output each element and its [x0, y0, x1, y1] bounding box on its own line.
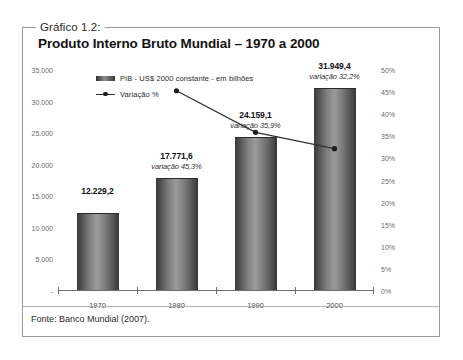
bar-value-label: 31.949,4	[318, 61, 350, 71]
x-axis-tick	[137, 287, 138, 294]
left-axis-tick-label: -	[51, 288, 53, 295]
source-note: Fonte: Banco Mundial (2007).	[31, 314, 150, 324]
left-axis-tick-label: 35.000	[32, 67, 53, 74]
chart-legend: PIB - US$ 2000 constante - em bilhões Va…	[96, 72, 253, 104]
figure-caption-tag: Gráfico 1.2:	[36, 17, 105, 37]
right-axis-tick-label: 20%	[381, 199, 395, 206]
bar-value-label: 24.159,1	[239, 110, 271, 120]
x-axis-tick	[216, 287, 217, 294]
legend-label-pib: PIB - US$ 2000 constante - em bilhões	[120, 74, 253, 83]
bar	[77, 213, 119, 290]
left-axis-tick-label: 10.000	[32, 224, 53, 231]
left-axis-tick-label: 30.000	[32, 98, 53, 105]
line-marker-icon	[96, 91, 115, 98]
right-axis-tick-label: 35%	[381, 133, 395, 140]
left-axis-tick-label: 20.000	[32, 161, 53, 168]
x-axis-tick	[58, 287, 59, 294]
source-divider	[23, 306, 439, 307]
variation-label: variação 35,9%	[230, 121, 280, 130]
right-axis-tick-label: 0%	[381, 288, 391, 295]
caption-rule-left	[22, 27, 36, 28]
x-axis-tick	[295, 287, 296, 294]
bar-value-label: 17.771,6	[160, 151, 192, 161]
variation-label: variação 32,2%	[309, 72, 359, 81]
bar	[235, 137, 277, 290]
bar-value-label: 12.229,2	[81, 186, 113, 196]
right-axis-tick-label: 15%	[381, 221, 395, 228]
bar	[156, 178, 198, 290]
right-axis-tick-label: 40%	[381, 111, 395, 118]
right-axis-tick-label: 30%	[381, 155, 395, 162]
right-axis-tick-label: 10%	[381, 243, 395, 250]
left-axis-tick-label: 15.000	[32, 193, 53, 200]
legend-item-pib: PIB - US$ 2000 constante - em bilhões	[96, 72, 253, 84]
left-axis-tick-label: 5.000	[35, 256, 53, 263]
variation-marker	[253, 130, 258, 135]
figure-title: Produto Interno Bruto Mundial – 1970 a 2…	[38, 36, 320, 51]
legend-item-variacao: Variação %	[96, 88, 253, 100]
right-axis-tick-label: 25%	[381, 177, 395, 184]
variation-label: variação 45,3%	[151, 162, 201, 171]
left-axis-tick-label: 25.000	[32, 130, 53, 137]
right-axis-tick-label: 5%	[381, 265, 391, 272]
x-axis-tick	[373, 287, 374, 294]
bar-swatch-icon	[96, 76, 115, 81]
bar	[314, 88, 356, 290]
legend-label-variacao: Variação %	[120, 90, 159, 99]
right-axis-tick-label: 50%	[381, 67, 395, 74]
right-axis-tick-label: 45%	[381, 89, 395, 96]
